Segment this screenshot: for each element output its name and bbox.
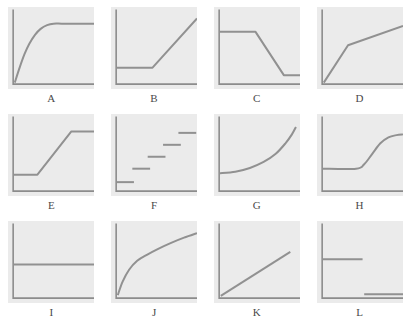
axes-g [219, 116, 300, 191]
multi-panel-graph-figure: A B C [0, 0, 411, 321]
panel-cell-h: H [308, 107, 411, 214]
panel-cell-d: D [308, 0, 411, 107]
data-line-d [323, 26, 402, 83]
plot-panel-e [8, 114, 94, 196]
plot-panel-g [214, 114, 300, 196]
panel-label-e: E [48, 199, 55, 211]
plot-panel-a [8, 7, 94, 89]
plot-svg-h [317, 114, 403, 196]
plot-panel-j [111, 221, 197, 303]
panel-label-k: K [253, 306, 261, 318]
plot-svg-k [214, 221, 300, 303]
axes-c [219, 9, 300, 84]
series-path [118, 233, 197, 295]
series-path [221, 252, 291, 296]
data-line-j [118, 233, 197, 295]
panel-label-c: C [253, 92, 261, 104]
panel-label-h: H [356, 199, 364, 211]
panel-label-d: D [356, 92, 364, 104]
panel-grid: A B C [0, 0, 411, 321]
panel-cell-j: J [103, 214, 206, 321]
plot-panel-c [214, 7, 300, 89]
panel-cell-f: F [103, 107, 206, 214]
series-path [322, 134, 403, 169]
plot-panel-l [317, 221, 403, 303]
panel-cell-i: I [0, 214, 103, 321]
series-path [219, 127, 296, 173]
plot-svg-e [8, 114, 94, 196]
data-line-a [15, 24, 94, 83]
data-line-g [219, 127, 296, 173]
axes-l [322, 223, 403, 298]
data-line-e [14, 131, 95, 174]
panel-label-f: F [151, 199, 157, 211]
axis-line [322, 223, 403, 298]
series-path [14, 131, 95, 174]
axis-line [116, 9, 197, 84]
panel-label-b: B [150, 92, 158, 104]
axis-line [322, 9, 403, 84]
plot-svg-i [8, 221, 94, 303]
panel-label-i: I [49, 306, 53, 318]
panel-cell-c: C [206, 0, 309, 107]
data-line-l [322, 259, 403, 294]
plot-panel-i [8, 221, 94, 303]
panel-label-g: G [253, 199, 261, 211]
panel-cell-k: K [206, 214, 309, 321]
panel-cell-b: B [103, 0, 206, 107]
axes-h [322, 116, 403, 191]
plot-svg-a [8, 7, 94, 89]
data-line-c [219, 32, 300, 75]
plot-svg-d [317, 7, 403, 89]
panel-cell-e: E [0, 107, 103, 214]
axes-b [116, 9, 197, 84]
axes-f [116, 116, 197, 191]
plot-svg-c [214, 7, 300, 89]
series-path [15, 24, 94, 83]
data-line-h [322, 134, 403, 169]
axis-line [14, 9, 95, 84]
axis-line [14, 223, 95, 298]
plot-svg-g [214, 114, 300, 196]
axis-line [322, 116, 403, 191]
plot-svg-j [111, 221, 197, 303]
axes-d [322, 9, 403, 84]
axis-line [116, 116, 197, 191]
panel-label-l: L [356, 306, 363, 318]
axes-a [14, 9, 95, 84]
data-line-k [221, 252, 291, 296]
axes-j [116, 223, 197, 298]
data-line-b [116, 18, 197, 67]
plot-panel-k [214, 221, 300, 303]
series-path [219, 32, 300, 75]
panel-label-j: J [152, 306, 156, 318]
series-path [323, 26, 402, 83]
plot-svg-f [111, 114, 197, 196]
axis-line [219, 223, 300, 298]
axis-line [219, 9, 300, 84]
series-path [116, 18, 197, 67]
panel-cell-l: L [308, 214, 411, 321]
plot-panel-h [317, 114, 403, 196]
axis-line [219, 116, 300, 191]
plot-panel-b [111, 7, 197, 89]
plot-svg-b [111, 7, 197, 89]
plot-panel-f [111, 114, 197, 196]
axis-line [116, 223, 197, 298]
plot-panel-d [317, 7, 403, 89]
axes-i [14, 223, 95, 298]
axes-k [219, 223, 300, 298]
panel-cell-g: G [206, 107, 309, 214]
plot-svg-l [317, 221, 403, 303]
panel-cell-a: A [0, 0, 103, 107]
panel-label-a: A [47, 92, 55, 104]
data-line-f [116, 133, 196, 182]
